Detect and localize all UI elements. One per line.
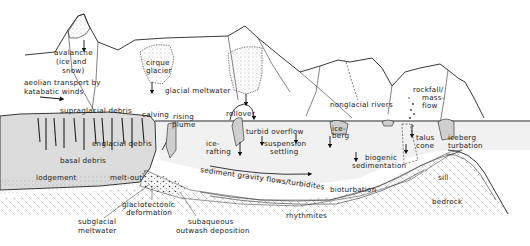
label-nonglacial-rivers: nonglacial rivers [330,100,393,109]
glaciomarine-process-diagram: avalanche (ice and snow) aeolian transpo… [0,0,530,246]
label-turbid-overflow: turbid overflow [246,127,304,136]
label-ice-berg-2: berg [332,131,349,140]
label-subaqueous-1: subaqueous [188,217,234,226]
label-englacial: englacial debris [92,139,152,148]
floating-ice [382,120,394,126]
cirque-glacier-right [228,47,262,94]
label-aeolian-1: aeolian transport by [24,78,101,87]
label-suspension-2: settling [270,147,299,156]
label-biogenic-2: sedimentation [352,161,406,170]
label-avalanche-2: (ice and [56,57,87,66]
label-bedrock: bedrock [432,197,463,206]
label-avalanche-3: snow) [62,66,84,75]
label-bioturbation: bioturbation [330,185,376,194]
label-subglacial-1: subglacial [78,217,116,226]
label-melt-out: melt-out [110,173,142,182]
label-basal-debris: basal debris [60,156,106,165]
label-glaciotectonic-2: deformation [126,208,172,217]
label-rockfall-3: flow [422,101,438,110]
label-calving: calving [142,110,169,119]
label-lodgement: lodgement [36,173,77,182]
label-avalanche-1: avalanche [54,48,93,57]
label-iceberg-turbation-2: turbation [448,141,483,150]
label-talus-2: cone [416,141,435,150]
label-rollover: rollover [226,109,255,118]
label-cirque-2: glacier [146,66,172,75]
label-subaqueous-2: outwash deposition [176,226,250,235]
aeolian-arrow [40,97,62,99]
label-ice-rafting-2: rafting [206,147,231,156]
label-glacial-meltwater: glacial meltwater [165,86,231,95]
label-rising-2: plume [172,120,196,129]
label-subglacial-2: meltwater [78,226,117,235]
label-aeolian-2: katabatic winds [24,87,83,96]
label-supraglacial: supraglacial debris [60,106,132,115]
label-rhythmites: rhythmites [286,211,327,220]
label-sill: sill [438,173,449,182]
